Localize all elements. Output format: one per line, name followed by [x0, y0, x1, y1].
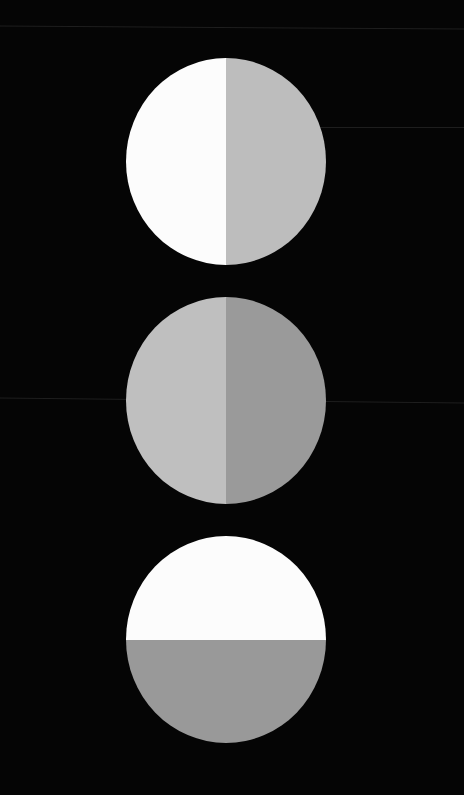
- disc-1: [126, 58, 326, 265]
- scanline: [0, 25, 464, 29]
- disc-2-right-half: [226, 297, 326, 504]
- disc-3: [126, 536, 326, 743]
- disc-1-left-half: [126, 58, 226, 265]
- disc-1-right-half: [226, 58, 326, 265]
- disc-3-top-half: [126, 536, 326, 640]
- disc-3-bottom-half: [126, 640, 326, 744]
- disc-2-left-half: [126, 297, 226, 504]
- scanline: [320, 127, 464, 128]
- disc-2: [126, 297, 326, 504]
